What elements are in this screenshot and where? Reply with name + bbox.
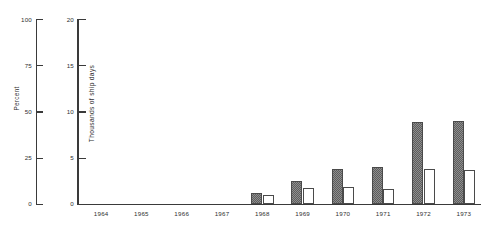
bar-shaded-bar-1969 bbox=[291, 181, 302, 204]
percent-tick-25 bbox=[36, 158, 43, 159]
bar-group-1972 bbox=[403, 19, 443, 204]
ship-days-tick-label-5: 5 bbox=[56, 154, 74, 161]
bar-group-1970 bbox=[323, 19, 363, 204]
bar-shaded-bar-1973 bbox=[453, 121, 464, 204]
bar-shaded-bar-1972 bbox=[412, 122, 423, 204]
bar-open-bar-1973 bbox=[464, 170, 475, 204]
ship-days-tick-label-15: 15 bbox=[56, 62, 74, 69]
percent-tick-label-0: 0 bbox=[10, 200, 32, 207]
x-axis-label-row: 1964196519661967196819691970197119721973 bbox=[78, 210, 481, 224]
ship-days-tick-label-20: 20 bbox=[56, 16, 74, 23]
bar-shaded-bar-1968 bbox=[251, 193, 262, 204]
x-axis-label-1973: 1973 bbox=[444, 210, 484, 217]
bar-open-bar-1969 bbox=[303, 188, 314, 204]
bar-shaded-bar-1971 bbox=[372, 167, 383, 204]
chart-figure: 100 75 50 25 0 Percent 20 15 10 5 0 Thou… bbox=[0, 0, 489, 242]
bar-group-1971 bbox=[363, 19, 403, 204]
x-axis-label-1964: 1964 bbox=[81, 210, 121, 217]
bar-group-1964 bbox=[81, 19, 121, 204]
x-axis-label-1965: 1965 bbox=[121, 210, 161, 217]
ship-days-tick-label-0: 0 bbox=[56, 200, 74, 207]
bar-shaded-bar-1970 bbox=[332, 169, 343, 204]
bar-group-1969 bbox=[283, 19, 323, 204]
percent-tick-0 bbox=[36, 204, 43, 205]
x-axis-label-1972: 1972 bbox=[404, 210, 444, 217]
percent-tick-50 bbox=[36, 111, 43, 112]
bar-open-bar-1968 bbox=[263, 195, 274, 204]
x-axis-label-1966: 1966 bbox=[162, 210, 202, 217]
bar-open-bar-1970 bbox=[343, 187, 354, 204]
bar-group-1973 bbox=[444, 19, 484, 204]
x-axis-label-1969: 1969 bbox=[283, 210, 323, 217]
x-axis-label-1971: 1971 bbox=[363, 210, 403, 217]
percent-tick-75 bbox=[36, 65, 43, 66]
bar-group-1966 bbox=[162, 19, 202, 204]
x-axis-label-1970: 1970 bbox=[323, 210, 363, 217]
x-axis-label-1968: 1968 bbox=[242, 210, 282, 217]
x-axis-label-1967: 1967 bbox=[202, 210, 242, 217]
bar-open-bar-1971 bbox=[383, 189, 394, 204]
bar-open-bar-1972 bbox=[424, 169, 435, 204]
percent-tick-label-25: 25 bbox=[10, 154, 32, 161]
bar-group-1968 bbox=[242, 19, 282, 204]
percent-tick-label-100: 100 bbox=[10, 16, 32, 23]
plot-area bbox=[78, 19, 481, 204]
percent-tick-100 bbox=[36, 19, 43, 20]
ship-days-tick-label-10: 10 bbox=[56, 108, 74, 115]
bar-group-1967 bbox=[202, 19, 242, 204]
percent-axis-title: Percent bbox=[13, 69, 20, 129]
bar-group-1965 bbox=[121, 19, 161, 204]
